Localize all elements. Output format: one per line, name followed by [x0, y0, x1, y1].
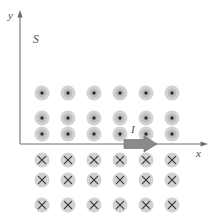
x-axis-arrowhead-icon — [201, 141, 209, 146]
field-symbol-cross — [165, 153, 180, 168]
field-symbol-cross — [87, 153, 102, 168]
dot-core — [66, 116, 69, 119]
region-label-s: S — [33, 33, 39, 45]
field-symbol-dot — [35, 127, 50, 142]
x-axis-label: x — [195, 147, 201, 159]
field-symbol-dot — [61, 111, 76, 126]
field-symbol-dot — [113, 86, 128, 101]
dot-core — [40, 116, 43, 119]
field-symbol-dot — [61, 127, 76, 142]
field-symbol-cross — [113, 173, 128, 188]
dot-core — [92, 91, 95, 94]
field-symbol-cross — [165, 173, 180, 188]
dot-core — [118, 116, 121, 119]
current-label-i: I — [130, 123, 136, 135]
y-axis-arrowhead-icon — [17, 10, 22, 18]
dot-core — [66, 91, 69, 94]
dot-core — [144, 132, 147, 135]
field-symbol-dot — [139, 111, 154, 126]
field-symbol-dot — [165, 127, 180, 142]
dot-core — [118, 91, 121, 94]
field-symbol-cross — [61, 198, 76, 213]
field-symbol-cross — [87, 173, 102, 188]
dot-core — [66, 132, 69, 135]
field-symbol-cross — [139, 173, 154, 188]
field-symbol-dot — [87, 111, 102, 126]
dot-core — [170, 132, 173, 135]
dot-core — [40, 91, 43, 94]
field-symbol-dot — [87, 86, 102, 101]
dot-core — [92, 116, 95, 119]
field-symbols-layer — [35, 86, 180, 213]
field-symbol-cross — [139, 198, 154, 213]
field-symbol-cross — [35, 153, 50, 168]
field-symbol-dot — [87, 127, 102, 142]
dot-core — [118, 132, 121, 135]
field-symbol-dot — [61, 86, 76, 101]
field-symbol-cross — [61, 173, 76, 188]
dot-core — [92, 132, 95, 135]
dot-core — [144, 91, 147, 94]
physics-field-diagram: y x S I — [0, 0, 214, 220]
field-symbol-dot — [113, 111, 128, 126]
dot-core — [144, 116, 147, 119]
field-symbol-dot — [35, 86, 50, 101]
field-symbol-dot — [35, 111, 50, 126]
axes-layer — [17, 10, 208, 147]
field-symbol-cross — [113, 153, 128, 168]
diagram-canvas: y x S I — [0, 0, 214, 220]
field-symbol-cross — [35, 198, 50, 213]
field-symbol-cross — [61, 153, 76, 168]
y-axis-label: y — [7, 9, 13, 21]
dot-core — [170, 91, 173, 94]
field-symbol-dot — [139, 86, 154, 101]
field-symbol-cross — [35, 173, 50, 188]
dot-core — [40, 132, 43, 135]
field-symbol-dot — [165, 111, 180, 126]
dot-core — [170, 116, 173, 119]
field-symbol-dot — [165, 86, 180, 101]
field-symbol-cross — [139, 153, 154, 168]
field-symbol-cross — [165, 198, 180, 213]
field-symbol-cross — [87, 198, 102, 213]
field-symbol-cross — [113, 198, 128, 213]
